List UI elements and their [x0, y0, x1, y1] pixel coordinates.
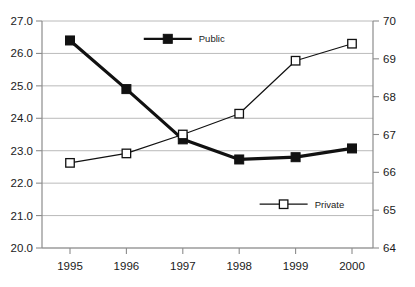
data-point-marker — [348, 144, 357, 153]
data-point-marker — [348, 39, 357, 48]
right-axis-tick-label: 69 — [383, 53, 396, 65]
data-point-marker — [122, 149, 130, 158]
data-point-marker — [66, 159, 75, 168]
right-axis-tick-labels: 70696867666564 — [373, 15, 396, 254]
left-axis-tick-label: 23.0 — [11, 145, 33, 157]
x-axis-tick-label: 1996 — [114, 260, 140, 272]
right-axis-tick-label: 67 — [383, 129, 396, 141]
x-axis-tick-label: 1998 — [226, 260, 252, 272]
data-point-marker — [122, 85, 131, 94]
data-series — [66, 36, 357, 167]
left-axis-tick-label: 24.0 — [11, 112, 33, 124]
x-axis-tick-label: 2000 — [339, 260, 365, 272]
legend-marker — [163, 34, 172, 43]
data-point-marker — [179, 130, 188, 139]
legend-marker — [279, 200, 288, 209]
chart-axes — [42, 21, 373, 248]
legend-label: Public — [199, 33, 225, 44]
left-axis-tick-label: 26.0 — [11, 47, 33, 59]
legend-label: Private — [315, 199, 345, 210]
chart-container: 27.026.025.024.023.022.021.020.0 7069686… — [0, 0, 415, 287]
gridlines — [42, 21, 373, 248]
series-line — [70, 44, 352, 163]
x-axis-tick-label: 1999 — [283, 260, 309, 272]
data-point-marker — [291, 56, 300, 65]
data-point-marker — [235, 155, 244, 164]
series-line — [70, 40, 352, 159]
data-point-marker — [291, 153, 300, 162]
left-axis-tick-labels: 27.026.025.024.023.022.021.020.0 — [11, 15, 42, 254]
left-axis-tick-label: 20.0 — [11, 242, 33, 254]
x-axis-tick-label: 1995 — [57, 260, 83, 272]
data-point-marker — [235, 109, 244, 118]
x-axis-tick-labels: 199519961997199819992000 — [57, 248, 365, 272]
right-axis-tick-label: 64 — [383, 242, 396, 254]
right-axis-tick-label: 68 — [383, 91, 396, 103]
x-axis-tick-label: 1997 — [170, 260, 196, 272]
right-axis-tick-label: 66 — [383, 166, 396, 178]
legend-item-public: Public — [144, 33, 225, 44]
left-axis-tick-label: 25.0 — [11, 80, 33, 92]
left-axis-tick-label: 21.0 — [11, 210, 33, 222]
left-axis-tick-label: 27.0 — [11, 15, 33, 27]
legend-item-private: Private — [260, 199, 345, 210]
left-axis-tick-label: 22.0 — [11, 177, 33, 189]
line-chart: 27.026.025.024.023.022.021.020.0 7069686… — [0, 0, 415, 287]
right-axis-tick-label: 65 — [383, 204, 396, 216]
data-point-marker — [66, 36, 75, 45]
right-axis-tick-label: 70 — [383, 15, 396, 27]
